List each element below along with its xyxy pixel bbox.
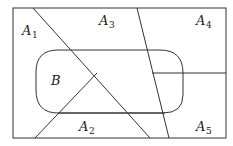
svg-text:A: A [78,119,88,134]
partition-diagram: A 1 A 3 A 4 B A 2 A 5 [0,0,233,146]
svg-text:4: 4 [206,20,212,30]
svg-text:5: 5 [206,126,212,136]
label-b: B [50,73,61,88]
label-a2: A 2 [78,119,95,136]
svg-text:A: A [195,119,205,134]
svg-text:2: 2 [89,126,95,136]
svg-text:A: A [195,13,205,28]
label-a3: A 3 [98,13,115,30]
svg-text:3: 3 [109,20,115,30]
svg-text:A: A [21,23,31,38]
svg-text:B: B [50,73,61,88]
label-a5: A 5 [195,119,212,136]
svg-text:1: 1 [32,30,38,40]
svg-text:A: A [98,13,108,28]
label-a1: A 1 [21,23,38,40]
label-a4: A 4 [195,13,212,30]
